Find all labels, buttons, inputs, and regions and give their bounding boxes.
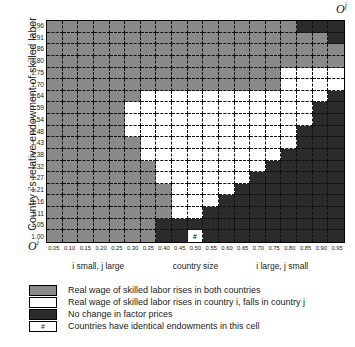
heatmap-cell xyxy=(94,161,110,173)
x-axis-sublabel: i large, j small xyxy=(256,262,308,271)
heatmap-cell xyxy=(63,184,79,196)
heatmap-cell xyxy=(78,230,94,242)
heatmap-cell xyxy=(235,230,251,242)
heatmap-cell xyxy=(313,91,329,103)
heatmap-cell xyxy=(250,172,266,184)
heatmap-cell xyxy=(47,149,63,161)
heatmap-cell xyxy=(156,161,172,173)
heatmap-grid: # xyxy=(47,21,344,242)
y-tick-label: 1.00 xyxy=(20,234,44,241)
heatmap-cell xyxy=(250,149,266,161)
heatmap-cell xyxy=(297,230,313,242)
heatmap-cell xyxy=(156,79,172,91)
heatmap-cell xyxy=(203,149,219,161)
heatmap-cell xyxy=(94,114,110,126)
heatmap-cell xyxy=(78,102,94,114)
heatmap-cell xyxy=(172,126,188,138)
heatmap-cell xyxy=(156,68,172,80)
heatmap-cell xyxy=(110,149,126,161)
heatmap-cell xyxy=(203,21,219,33)
heatmap-cell xyxy=(47,172,63,184)
heatmap-cell xyxy=(78,195,94,207)
heatmap-cell xyxy=(156,33,172,45)
heatmap-cell xyxy=(110,21,126,33)
heatmap-cell xyxy=(141,172,157,184)
heatmap-cell xyxy=(63,219,79,231)
heatmap-cell xyxy=(250,195,266,207)
heatmap-cell xyxy=(172,207,188,219)
heatmap-cell xyxy=(297,114,313,126)
heatmap-cell xyxy=(78,114,94,126)
heatmap-cell xyxy=(63,44,79,56)
heatmap-cell xyxy=(281,91,297,103)
heatmap-cell xyxy=(172,137,188,149)
heatmap-cell xyxy=(313,68,329,80)
heatmap-cell xyxy=(297,207,313,219)
heatmap-cell xyxy=(47,91,63,103)
heatmap-cell xyxy=(141,79,157,91)
heatmap-cell xyxy=(141,33,157,45)
heatmap-cell xyxy=(78,91,94,103)
heatmap-cell xyxy=(297,33,313,45)
y-tick-label: 1.48 xyxy=(20,128,44,135)
y-tick-label: 1.43 xyxy=(20,140,44,147)
heatmap-cell xyxy=(328,79,344,91)
x-tick-label: 0.15 xyxy=(80,246,91,252)
heatmap-cell xyxy=(156,137,172,149)
y-tick-label: 1.96 xyxy=(20,23,44,30)
heatmap-cell xyxy=(313,79,329,91)
heatmap-cell xyxy=(110,33,126,45)
legend-swatch xyxy=(29,297,57,308)
y-tick-label: 1.75 xyxy=(20,70,44,77)
heatmap-cell xyxy=(172,21,188,33)
heatmap-cell xyxy=(250,68,266,80)
heatmap-cell xyxy=(78,21,94,33)
heatmap-cell xyxy=(250,230,266,242)
heatmap-cell xyxy=(94,137,110,149)
legend-item: No change in factor prices xyxy=(29,308,349,320)
heatmap-cell xyxy=(78,219,94,231)
heatmap-cell xyxy=(266,161,282,173)
heatmap-cell xyxy=(313,137,329,149)
heatmap-cell xyxy=(250,184,266,196)
heatmap-cell xyxy=(78,184,94,196)
heatmap-cell xyxy=(156,207,172,219)
heatmap-cell xyxy=(125,33,141,45)
heatmap-cell xyxy=(110,230,126,242)
y-tick-label: 1.59 xyxy=(20,105,44,112)
heatmap-cell xyxy=(235,219,251,231)
heatmap-cell xyxy=(94,149,110,161)
heatmap-cell xyxy=(250,102,266,114)
heatmap-cell xyxy=(250,207,266,219)
heatmap-cell xyxy=(203,33,219,45)
heatmap-cell xyxy=(281,161,297,173)
x-tick-label: 0.45 xyxy=(174,246,185,252)
heatmap-cell xyxy=(188,219,204,231)
heatmap-cell xyxy=(63,207,79,219)
heatmap-cell xyxy=(78,161,94,173)
heatmap-cell xyxy=(125,149,141,161)
heatmap-cell xyxy=(219,184,235,196)
heatmap-cell xyxy=(63,161,79,173)
heatmap-cell xyxy=(125,184,141,196)
heatmap-cell xyxy=(203,230,219,242)
heatmap-cell xyxy=(94,44,110,56)
heatmap-cell xyxy=(78,33,94,45)
heatmap-cell xyxy=(266,207,282,219)
y-tick-label: 1.32 xyxy=(20,163,44,170)
heatmap-cell xyxy=(125,219,141,231)
x-tick-label: 0.95 xyxy=(331,246,342,252)
heatmap-cell xyxy=(219,195,235,207)
legend-swatch xyxy=(29,309,57,320)
x-axis-sublabels: i small, j largecountry sizei large, j s… xyxy=(46,262,345,276)
heatmap-cell xyxy=(141,56,157,68)
heatmap-cell xyxy=(328,230,344,242)
heatmap-cell xyxy=(78,68,94,80)
heatmap-cell xyxy=(188,68,204,80)
heatmap-cell xyxy=(297,79,313,91)
heatmap-cell xyxy=(141,137,157,149)
heatmap-cell xyxy=(266,33,282,45)
heatmap-cell xyxy=(125,21,141,33)
x-tick-label: 0.75 xyxy=(269,246,280,252)
heatmap-cell xyxy=(266,91,282,103)
